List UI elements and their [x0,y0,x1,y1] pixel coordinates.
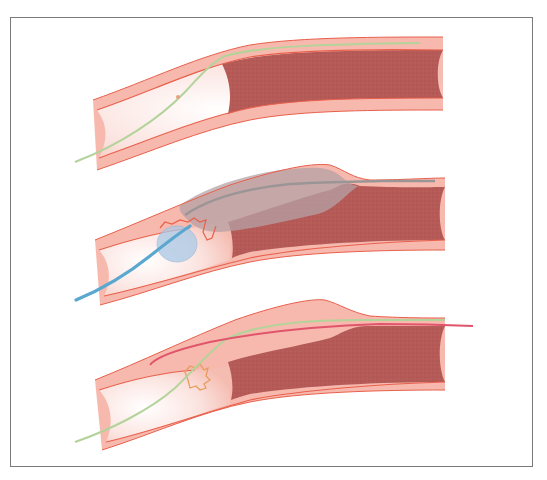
panel-1 [75,37,443,170]
guidewire-marker [176,95,180,99]
vessel-illustration [0,0,547,480]
panel-3 [75,300,473,450]
panel-2 [76,164,445,305]
